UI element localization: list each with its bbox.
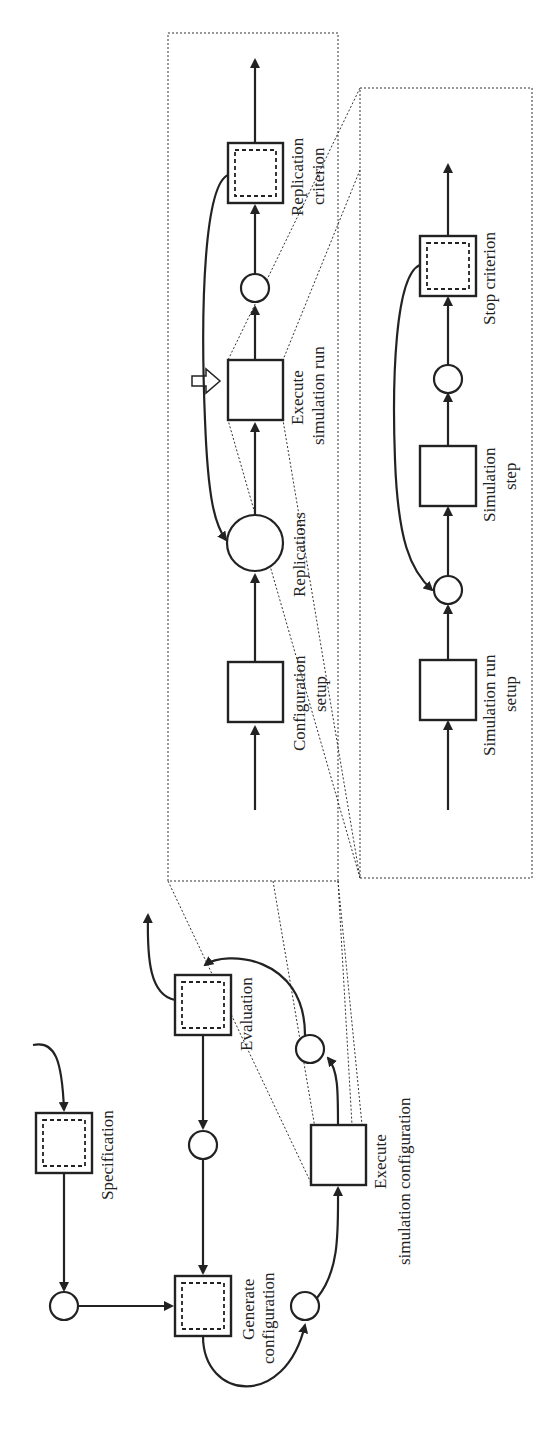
place [291,1292,319,1320]
petri-net-diagram: Specification Generate configuration Exe… [0,0,547,1453]
label-execute-sim-config-2: simulation configuration [395,1097,414,1265]
label-replication-criterion-1: Replication [288,137,307,216]
label-execute-sim-run-1: Execute [288,370,307,425]
simulation-step-transition [420,446,476,506]
generate-configuration-transition [175,1276,231,1336]
label-simulation-step-1: Simulation [480,447,499,522]
place [189,1131,217,1159]
label-replications: Replications [290,512,309,597]
simulation-run-setup-transition [420,660,476,720]
refinement-arrow-icon [192,369,220,393]
execute-simulation-configuration-transition [311,1125,366,1185]
label-execute-sim-config-1: Execute [371,1134,390,1189]
label-simulation-run-setup-2: setup [501,676,520,712]
label-generate-configuration-1: Generate [239,1279,258,1340]
place [241,274,269,302]
label-simulation-step-2: step [501,463,520,490]
labels: Specification Generate configuration Exe… [98,137,520,1364]
label-replication-criterion-2: criterion [309,147,328,205]
label-generate-configuration-2: configuration [259,1272,278,1364]
label-specification: Specification [98,1110,117,1200]
replication-criterion-transition [228,143,283,203]
place [296,1035,324,1063]
execute-simulation-run-transition [228,360,283,420]
replications-place [227,515,283,571]
evaluation-transition [175,975,231,1035]
label-execute-sim-run-2: simulation run [309,346,328,445]
configuration-detail [192,60,283,810]
specification-transition [36,1113,92,1173]
stop-criterion-transition [420,236,476,296]
label-simulation-run-setup-1: Simulation run [480,654,499,756]
place [434,365,462,393]
label-configuration-setup-1: Configuration [290,655,309,751]
place [434,576,462,604]
label-stop-criterion: Stop criterion [480,231,499,325]
label-evaluation: Evaluation [237,977,256,1051]
main-process [33,915,366,1386]
run-detail [394,165,476,810]
configuration-setup-transition [228,662,283,722]
label-configuration-setup-2: setup [311,676,330,712]
place [50,1292,78,1320]
